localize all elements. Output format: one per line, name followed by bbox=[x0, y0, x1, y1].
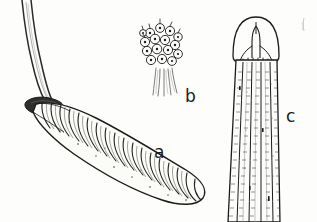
figure-a bbox=[22, 0, 205, 204]
seta bbox=[22, 0, 52, 101]
figure-canvas bbox=[0, 0, 317, 222]
figure-label-c: c bbox=[286, 108, 295, 125]
capsule bbox=[33, 100, 205, 204]
stalk-bundle bbox=[153, 68, 177, 96]
figure-label-b: b bbox=[185, 88, 196, 105]
figure-label-a: a bbox=[154, 144, 164, 161]
figure-b bbox=[140, 19, 183, 96]
spherical-bodies bbox=[140, 19, 183, 65]
figure-c bbox=[228, 17, 281, 222]
illustration-plate: a b c bbox=[0, 0, 317, 222]
corner-tick-icon bbox=[302, 18, 304, 31]
longitudinal-rows bbox=[228, 60, 281, 222]
